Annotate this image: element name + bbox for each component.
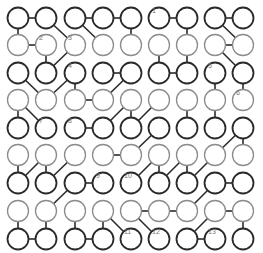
- node-number-label: 12: [152, 228, 160, 235]
- circle-node-r6-c6[interactable]: [177, 173, 198, 194]
- puzzle-board: 12345678910111213: [0, 0, 263, 253]
- circle-node-r0-c4[interactable]: [121, 8, 142, 29]
- circle-node-r5-c2[interactable]: [65, 145, 86, 166]
- circle-node-r3-c7[interactable]: [205, 90, 226, 111]
- circle-node-r0-c0[interactable]: [8, 8, 29, 29]
- circle-node-r5-c0[interactable]: [8, 145, 29, 166]
- circle-node-r2-c5[interactable]: [149, 63, 170, 84]
- circle-node-r6-c2[interactable]: [65, 173, 86, 194]
- circle-node-r4-c8[interactable]: [233, 118, 254, 139]
- node-number-label: 1: [152, 7, 156, 14]
- circle-node-r5-c4[interactable]: [121, 145, 142, 166]
- circle-node-r4-c0[interactable]: [8, 118, 29, 139]
- circle-node-r0-c8[interactable]: [233, 8, 254, 29]
- circle-node-r8-c0[interactable]: [8, 229, 29, 250]
- circle-node-r8-c3[interactable]: [93, 229, 114, 250]
- circle-node-r2-c0[interactable]: [8, 63, 29, 84]
- node-number-label: 7: [39, 117, 43, 124]
- circle-node-r8-c2[interactable]: [65, 229, 86, 250]
- circle-node-r3-c0[interactable]: [8, 90, 29, 111]
- circle-node-r1-c7[interactable]: [205, 35, 226, 56]
- circle-node-r6-c0[interactable]: [8, 173, 29, 194]
- circle-node-r0-c2[interactable]: [65, 8, 86, 29]
- circle-node-r6-c7[interactable]: [205, 173, 226, 194]
- circle-node-r4-c7[interactable]: [205, 118, 226, 139]
- circle-node-r3-c2[interactable]: [65, 90, 86, 111]
- circle-node-r0-c1[interactable]: [36, 8, 57, 29]
- circle-node-r7-c4[interactable]: [121, 201, 142, 222]
- circle-node-r2-c6[interactable]: [177, 63, 198, 84]
- node-number-label: 11: [124, 228, 131, 235]
- node-number-label: 2: [39, 34, 43, 41]
- circle-node-r3-c4[interactable]: [121, 90, 142, 111]
- circle-node-r1-c4[interactable]: [121, 35, 142, 56]
- circle-node-r1-c6[interactable]: [177, 35, 198, 56]
- circle-node-r5-c8[interactable]: [233, 145, 254, 166]
- circle-node-r8-c6[interactable]: [177, 229, 198, 250]
- node-number-label: 13: [208, 228, 216, 235]
- node-number-label: 5: [208, 62, 212, 69]
- circle-node-r4-c6[interactable]: [177, 118, 198, 139]
- circle-node-r8-c8[interactable]: [233, 229, 254, 250]
- node-number-label: 8: [68, 117, 72, 124]
- node-number-label: 3: [68, 34, 72, 41]
- circle-node-r2-c3[interactable]: [93, 63, 114, 84]
- circle-node-r4-c5[interactable]: [149, 118, 170, 139]
- circle-node-r3-c5[interactable]: [149, 90, 170, 111]
- circle-node-r7-c0[interactable]: [8, 201, 29, 222]
- circle-node-r4-c4[interactable]: [121, 118, 142, 139]
- circle-node-r3-c6[interactable]: [177, 90, 198, 111]
- circle-node-r5-c6[interactable]: [177, 145, 198, 166]
- circle-node-r7-c1[interactable]: [36, 201, 57, 222]
- circle-node-r5-c7[interactable]: [205, 145, 226, 166]
- circle-nodes: [8, 8, 254, 250]
- circle-node-r3-c3[interactable]: [93, 90, 114, 111]
- circle-node-r7-c7[interactable]: [205, 201, 226, 222]
- circle-node-r1-c8[interactable]: [233, 35, 254, 56]
- circle-node-r0-c6[interactable]: [177, 8, 198, 29]
- circle-node-r2-c8[interactable]: [233, 63, 254, 84]
- node-number-label: 9: [96, 172, 100, 179]
- circle-node-r7-c5[interactable]: [149, 201, 170, 222]
- node-number-label: 10: [124, 172, 132, 179]
- circle-node-r2-c1[interactable]: [36, 63, 57, 84]
- circle-node-r7-c6[interactable]: [177, 201, 198, 222]
- circle-node-r6-c1[interactable]: [36, 173, 57, 194]
- circle-node-r1-c5[interactable]: [149, 35, 170, 56]
- circle-node-r1-c0[interactable]: [8, 35, 29, 56]
- circle-node-r5-c3[interactable]: [93, 145, 114, 166]
- circle-node-r8-c1[interactable]: [36, 229, 57, 250]
- circle-node-r4-c3[interactable]: [93, 118, 114, 139]
- circle-node-r5-c1[interactable]: [36, 145, 57, 166]
- circle-node-r6-c8[interactable]: [233, 173, 254, 194]
- node-link-puzzle-grid: 12345678910111213: [0, 0, 263, 253]
- circle-node-r0-c3[interactable]: [93, 8, 114, 29]
- node-number-label: 6: [236, 89, 240, 96]
- circle-node-r2-c4[interactable]: [121, 63, 142, 84]
- circle-node-r3-c1[interactable]: [36, 90, 57, 111]
- node-number-label: 4: [68, 62, 72, 69]
- circle-node-r6-c5[interactable]: [149, 173, 170, 194]
- circle-node-r1-c3[interactable]: [93, 35, 114, 56]
- circle-node-r0-c7[interactable]: [205, 8, 226, 29]
- circle-node-r7-c8[interactable]: [233, 201, 254, 222]
- circle-node-r7-c3[interactable]: [93, 201, 114, 222]
- circle-node-r7-c2[interactable]: [65, 201, 86, 222]
- circle-node-r5-c5[interactable]: [149, 145, 170, 166]
